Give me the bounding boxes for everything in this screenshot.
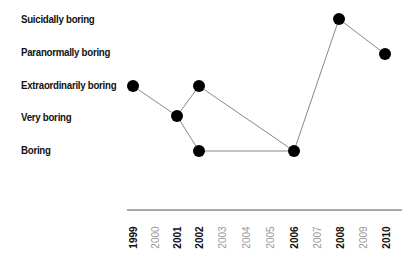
point-2006-boring <box>288 145 300 157</box>
x-tick-2003: 2003 <box>217 223 228 253</box>
x-tick-2006: 2006 <box>289 223 300 253</box>
x-tick-2007: 2007 <box>312 223 323 253</box>
x-tick-2010: 2010 <box>381 223 392 253</box>
data-points <box>127 13 391 157</box>
x-tick-1999: 1999 <box>128 223 139 253</box>
x-tick-2002: 2002 <box>194 223 205 253</box>
x-tick-2000: 2000 <box>150 223 161 253</box>
x-tick-2008: 2008 <box>335 223 346 253</box>
point-2002-extraordinarily <box>193 80 205 92</box>
point-2001-very <box>171 110 183 122</box>
plot-area <box>0 0 417 262</box>
x-tick-2004: 2004 <box>241 223 252 253</box>
point-2002-boring <box>193 145 205 157</box>
point-2010-paranormally <box>379 48 391 60</box>
point-2008-suicidally <box>333 13 345 25</box>
series-lines <box>133 19 385 151</box>
point-1999-extraordinarily <box>127 80 139 92</box>
x-tick-2001: 2001 <box>172 223 183 253</box>
x-tick-2009: 2009 <box>358 223 369 253</box>
x-tick-2005: 2005 <box>265 223 276 253</box>
